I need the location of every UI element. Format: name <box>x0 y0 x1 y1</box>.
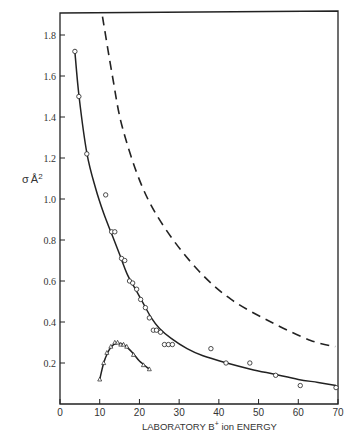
dashed-curve <box>102 17 335 347</box>
circle-marker <box>224 361 228 365</box>
x-axis-label-post: ion ENERGY <box>219 421 278 432</box>
circle-marker <box>130 281 134 285</box>
x-tick-label: 20 <box>134 407 146 418</box>
circle-marker <box>158 330 162 334</box>
circle-marker <box>170 342 174 346</box>
x-axis-ticks: 010203040506070 <box>57 399 344 418</box>
cross-section-chart: 0.20.40.60.81.01.21.41.61.8 010203040506… <box>0 0 352 436</box>
y-tick-label: 1.0 <box>44 194 57 205</box>
circle-marker <box>298 383 302 387</box>
circle-marker <box>209 346 213 350</box>
y-tick-label: 0.4 <box>44 317 57 328</box>
circle-marker <box>85 152 89 156</box>
x-tick-label: 10 <box>94 407 106 418</box>
solid-curve <box>100 343 150 379</box>
y-tick-label: 0.8 <box>44 235 57 246</box>
y-tick-label: 1.8 <box>44 30 57 41</box>
curves <box>75 17 336 386</box>
y-axis-ticks: 0.20.40.60.81.01.21.41.61.8 <box>44 30 66 369</box>
x-tick-label: 50 <box>253 407 265 418</box>
x-tick-label: 30 <box>174 407 186 418</box>
y-tick-label: 1.6 <box>44 71 57 82</box>
circle-marker <box>123 258 127 262</box>
y-axis-label-sigma: σ <box>22 173 29 185</box>
circle-marker <box>73 49 77 53</box>
circle-marker <box>143 305 147 309</box>
x-tick-label: 70 <box>332 407 344 418</box>
circle-marker <box>103 193 107 197</box>
circle-marker <box>248 361 252 365</box>
triangle-marker <box>98 377 102 381</box>
circle-marker <box>77 94 81 98</box>
x-axis-label-main: LABORATORY B <box>142 421 215 432</box>
y-tick-label: 0.6 <box>44 276 57 287</box>
triangle-marker <box>102 361 106 365</box>
x-tick-label: 40 <box>213 407 225 418</box>
y-tick-label: 1.2 <box>44 153 57 164</box>
y-axis-label: σÅ2 <box>22 172 43 185</box>
y-axis-label-sup: 2 <box>38 172 43 181</box>
circle-marker <box>147 316 151 320</box>
circle-marker <box>273 373 277 377</box>
y-tick-label: 1.4 <box>44 112 57 123</box>
circle-marker <box>138 297 142 301</box>
circle-marker <box>134 287 138 291</box>
x-tick-label: 0 <box>57 407 63 418</box>
x-axis-label: LABORATORY B+ ion ENERGY <box>142 420 278 432</box>
data-markers <box>73 49 339 390</box>
circle-marker <box>334 385 338 389</box>
circle-marker <box>113 230 117 234</box>
y-tick-label: 0.2 <box>44 358 57 369</box>
x-tick-label: 60 <box>293 407 305 418</box>
